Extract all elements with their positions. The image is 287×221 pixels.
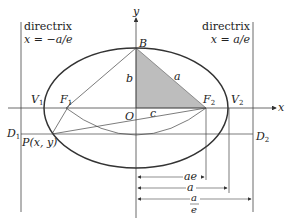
point-p-label: P(x, y) — [21, 136, 57, 149]
segment-a-label: a — [174, 70, 181, 83]
dim-a-over-e-denominator: e — [191, 204, 197, 215]
point-f1-label: F1 — [59, 93, 72, 107]
segment-c-label: c — [150, 107, 156, 120]
segment-b-label: b — [126, 72, 133, 85]
origin-label: O — [125, 110, 134, 123]
x-axis-label: x — [278, 101, 285, 114]
directrix-right-equation: x = a/e — [211, 33, 251, 46]
point-b-label: B — [138, 37, 147, 50]
y-axis-label: y — [132, 5, 140, 18]
point-d2-label: D2 — [255, 130, 269, 144]
ellipse-diagram: directrix x = −a/e directrix x = a/e y x… — [0, 0, 287, 221]
dim-a-over-e-numerator: a — [191, 192, 197, 203]
directrix-left-title: directrix — [24, 20, 73, 33]
shaded-triangle — [136, 48, 206, 108]
directrix-right-title: directrix — [202, 20, 251, 33]
point-d1-label: D1 — [6, 127, 20, 141]
point-v2-label: V2 — [231, 93, 243, 107]
point-f2-label: F2 — [202, 93, 215, 107]
point-v1-label: V1 — [31, 93, 43, 107]
directrix-left-equation: x = −a/e — [24, 33, 73, 46]
